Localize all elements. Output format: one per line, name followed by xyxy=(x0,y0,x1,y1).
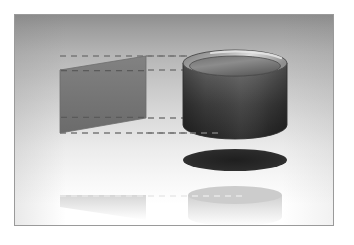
cylinder-reflection xyxy=(188,186,282,226)
rectangular-plane xyxy=(60,56,146,133)
image-plate xyxy=(14,14,334,226)
ground-shadow xyxy=(183,149,287,171)
scene-root xyxy=(0,0,354,245)
quad-reflection xyxy=(60,195,146,220)
cylinder-rim-inner xyxy=(190,56,281,76)
reflection-group xyxy=(60,186,282,226)
cylinder xyxy=(183,50,287,139)
quad-face xyxy=(60,56,146,133)
cylinder-reflection-rim xyxy=(188,186,282,204)
illustration-canvas xyxy=(15,15,334,226)
